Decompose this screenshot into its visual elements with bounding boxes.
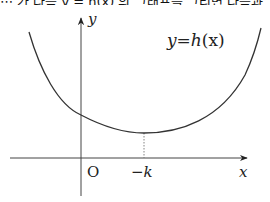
y-axis-label: y [88,10,96,28]
function-label-eq: = [177,30,191,50]
function-label-fn: h [191,30,202,50]
function-label-arg: (x) [202,30,225,50]
x-axis-label: x [239,163,247,181]
function-label: y=h(x) [167,30,225,50]
function-label-lhs: y [167,30,177,50]
origin-label: O [87,163,99,181]
curve-h [29,28,261,133]
min-point-label: −k [131,163,153,181]
